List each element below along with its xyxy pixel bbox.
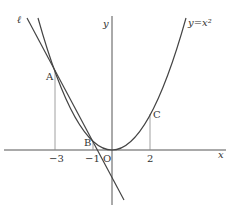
line-l <box>27 18 124 200</box>
origin-label: O <box>103 153 111 164</box>
point-c-label: C <box>153 109 161 120</box>
diagram-canvas: ℓ y y=x² x A B C O −3 −1 2 <box>0 0 234 208</box>
y-axis-label: y <box>102 18 109 29</box>
tick-label-neg1: −1 <box>85 153 100 164</box>
curve-label: y=x² <box>187 17 212 28</box>
line-l-label: ℓ <box>17 14 21 25</box>
point-a-label: A <box>45 71 54 82</box>
tick-label-neg3: −3 <box>49 153 64 164</box>
point-b-label: B <box>84 137 91 148</box>
x-axis-label: x <box>218 149 224 160</box>
tick-label-2: 2 <box>147 153 153 164</box>
parabola-diagram: ℓ y y=x² x A B C O −3 −1 2 <box>0 0 234 208</box>
